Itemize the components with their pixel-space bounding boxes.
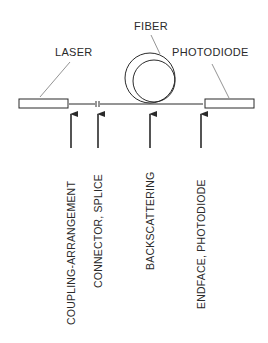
fiber-link-diagram: LASER FIBER PHOTODIODE COUPLING-ARRANGEM… (0, 0, 268, 343)
fiber-leader-line (151, 35, 160, 54)
loss-label-endface: ENDFACE, PHOTODIODE (195, 179, 207, 309)
photodiode-leader-line (212, 64, 229, 98)
photodiode-box (205, 99, 254, 108)
photodiode-label: PHOTODIODE (172, 46, 249, 58)
loss-label-backscattering: BACKSCATTERING (144, 172, 156, 270)
laser-label: LASER (55, 46, 93, 58)
loss-label-coupling: COUPLING-ARRANGEMENT (65, 181, 77, 325)
loss-label-connector: CONNECTOR, SPLICE (92, 174, 104, 288)
laser-box (19, 99, 68, 108)
laser-leader-line (40, 62, 70, 97)
fiber-label: FIBER (134, 20, 168, 32)
fiber-coil-icon (125, 53, 175, 103)
